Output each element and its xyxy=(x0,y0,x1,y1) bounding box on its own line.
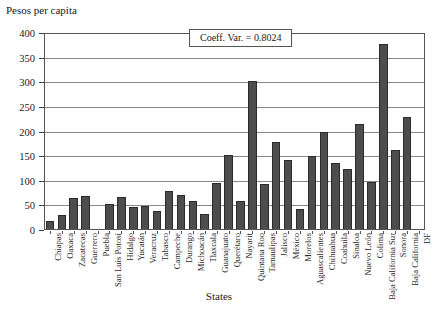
x-axis-tick-mark xyxy=(109,231,110,234)
x-axis-labels: ChiapasOaxacaZacatecasGuerreroPueblaSan … xyxy=(44,231,425,289)
x-axis-tick-label: Durango xyxy=(184,203,194,233)
y-axis-tick-label: 200 xyxy=(19,126,35,137)
x-axis-tick-mark xyxy=(217,231,218,234)
x-axis-tick-mark xyxy=(181,231,182,234)
x-axis-tick-mark xyxy=(240,231,241,234)
x-axis-tick-label: Querétaro xyxy=(232,199,242,233)
x-axis-tick-mark xyxy=(395,231,396,234)
x-axis-tick-mark xyxy=(157,231,158,234)
y-axis-tick-label: 150 xyxy=(19,151,35,162)
x-axis-tick-label: Baja California xyxy=(410,180,420,233)
x-axis-tick-mark xyxy=(205,231,206,234)
x-axis-tick-label: Zacatecas xyxy=(77,199,87,233)
y-axis-tick-label: 100 xyxy=(19,175,35,186)
x-axis-tick-mark xyxy=(145,231,146,234)
coefficient-variation-annotation: Coeff. Var. = 0.8024 xyxy=(189,29,292,47)
x-axis-tick-mark xyxy=(324,231,325,234)
x-axis-tick-mark xyxy=(371,231,372,234)
x-axis-tick-label: Quintana Roo xyxy=(256,185,266,233)
x-axis-tick-mark xyxy=(74,231,75,234)
x-axis-tick-mark xyxy=(336,231,337,234)
x-axis-tick-mark xyxy=(252,231,253,234)
y-axis-tick-label: 250 xyxy=(19,101,35,112)
x-axis-tick-label: Aguascalientes xyxy=(315,181,325,233)
x-axis-tick-label: Sonora xyxy=(398,209,408,233)
x-axis-tick-mark xyxy=(276,231,277,234)
x-axis-tick-mark xyxy=(419,231,420,234)
x-axis-tick-mark xyxy=(264,231,265,234)
x-axis-tick-label: Hidalgo xyxy=(125,205,135,233)
y-axis-ticks: 050100150200250300350400 xyxy=(0,33,44,230)
x-axis-tick-label: Chiapas xyxy=(53,205,63,233)
y-axis-tick-label: 350 xyxy=(19,52,35,63)
x-axis-tick-label: Tamaulipas xyxy=(267,194,277,234)
x-axis-tick-label: San Luis Potosí xyxy=(113,179,123,233)
x-axis-tick-mark xyxy=(407,231,408,234)
x-axis-tick-label: Campeche xyxy=(172,197,182,233)
x-axis-tick-label: México xyxy=(291,207,301,233)
x-axis-tick-label: Michoacán xyxy=(196,195,206,233)
y-axis-tick-label: 300 xyxy=(19,77,35,88)
x-axis-tick-mark xyxy=(288,231,289,234)
x-axis-tick-mark xyxy=(121,231,122,234)
x-axis-tick-label: Veracruz xyxy=(148,202,158,233)
y-axis-tick-label: 50 xyxy=(25,200,36,211)
x-axis-tick-label: Coahuila xyxy=(339,202,349,233)
x-axis-tick-mark xyxy=(98,231,99,234)
x-axis-tick-mark xyxy=(360,231,361,234)
x-axis-tick-label: Colima xyxy=(375,208,385,233)
x-axis-tick-label: Tabasco xyxy=(160,205,170,233)
y-axis-title: Pesos per capita xyxy=(6,4,77,16)
x-axis-tick-label: Chihuahua xyxy=(327,196,337,233)
x-axis-tick-label: Morelos xyxy=(303,204,313,233)
x-axis-tick-label: Sinaloa xyxy=(351,207,361,233)
x-axis-tick-label: Nayarit xyxy=(244,207,254,233)
x-axis-tick-label: DF xyxy=(422,222,432,233)
x-axis-tick-label: Jalisco xyxy=(279,210,289,233)
x-axis-tick-mark xyxy=(300,231,301,234)
y-axis-tick-label: 0 xyxy=(30,225,35,236)
x-axis-tick-label: Tlaxcala xyxy=(208,203,218,233)
x-axis-tick-mark xyxy=(229,231,230,234)
x-axis-tick-label: Yucatán xyxy=(136,205,146,233)
x-axis-tick-label: Puebla xyxy=(101,210,111,233)
x-axis-tick-mark xyxy=(62,231,63,234)
x-axis-tick-label: Baja California Sur xyxy=(387,166,397,233)
x-axis-tick-label: Oaxaca xyxy=(65,207,75,233)
x-axis-tick-mark xyxy=(169,231,170,234)
x-axis-tick-mark xyxy=(86,231,87,234)
x-axis-title: States xyxy=(0,290,438,302)
x-axis-tick-mark xyxy=(193,231,194,234)
x-axis-tick-label: Nuevo León xyxy=(363,190,373,233)
x-axis-tick-mark xyxy=(312,231,313,234)
x-axis-tick-mark xyxy=(348,231,349,234)
x-axis-tick-mark xyxy=(133,231,134,234)
x-axis-tick-label: Guanajuato xyxy=(220,193,230,233)
chart-figure: Pesos per capita 05010015020025030035040… xyxy=(0,0,438,316)
x-axis-tick-mark xyxy=(50,231,51,234)
x-axis-tick-label: Guerrero xyxy=(89,202,99,233)
y-axis-tick-label: 400 xyxy=(19,28,35,39)
x-axis-tick-mark xyxy=(383,231,384,234)
